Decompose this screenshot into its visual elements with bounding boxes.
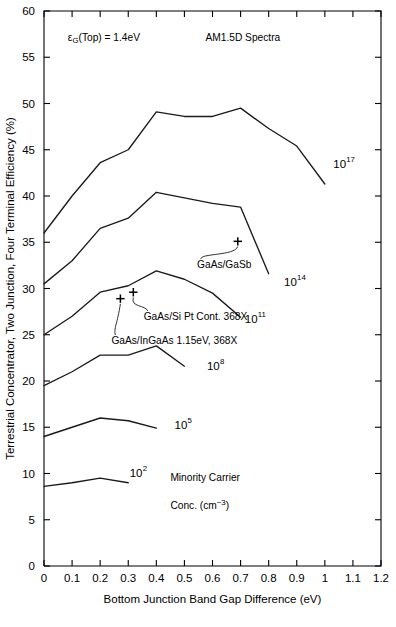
- x-tick-label-7: 0.7: [233, 572, 249, 584]
- y-tick-label-5: 25: [22, 329, 35, 341]
- series-label-base: 10: [175, 419, 188, 431]
- marker-label: GaAs/GaSb: [197, 259, 252, 270]
- x-tick-label-10: 1: [322, 572, 328, 584]
- y-tick-label-4: 20: [22, 375, 35, 387]
- x-tick-label-8: 0.8: [261, 572, 277, 584]
- x-tick-label-0: 0: [41, 572, 47, 584]
- series-label-base: 10: [333, 158, 346, 170]
- series-label-exponent: 11: [258, 310, 266, 319]
- series-label-exponent: 14: [297, 273, 306, 282]
- y-tick-label-10: 50: [22, 98, 35, 110]
- series-label-exponent: 2: [143, 464, 147, 473]
- series-label-exponent: 5: [188, 416, 193, 425]
- series-label-base: 10: [284, 276, 297, 288]
- series-label-exponent: 17: [346, 155, 355, 164]
- y-tick-label-6: 30: [22, 283, 35, 295]
- series-label-base: 10: [130, 467, 143, 479]
- minority-carrier-note-line1: Minority Carrier: [170, 472, 240, 483]
- x-tick-label-3: 0.3: [120, 572, 136, 584]
- x-tick-label-11: 1.1: [345, 572, 361, 584]
- x-axis-title: Bottom Junction Band Gap Difference (eV): [104, 593, 322, 605]
- efficiency-line-chart: 00.10.20.30.40.50.60.70.80.911.11.2 0510…: [0, 0, 396, 627]
- x-tick-label-1: 0.1: [64, 572, 80, 584]
- y-tick-label-8: 40: [22, 190, 35, 202]
- marker-label: GaAs/Si Pt Cont. 368X: [144, 311, 248, 322]
- y-axis-title: Terrestrial Concentrator, Two Junction, …: [4, 117, 16, 460]
- x-tick-label-2: 0.2: [92, 572, 108, 584]
- x-tick-label-9: 0.9: [289, 572, 305, 584]
- x-tick-label-5: 0.5: [176, 572, 192, 584]
- series-label-base: 10: [207, 360, 220, 372]
- chart-figure: 00.10.20.30.40.50.60.70.80.911.11.2 0510…: [0, 0, 396, 627]
- y-tick-label-2: 10: [22, 468, 35, 480]
- y-tick-label-9: 45: [22, 144, 35, 156]
- y-tick-label-7: 35: [22, 236, 35, 248]
- y-tick-label-0: 0: [29, 560, 35, 572]
- y-tick-label-3: 15: [22, 421, 35, 433]
- spectrum-note-text: AM1.5D Spectra: [205, 32, 280, 43]
- y-tick-label-11: 55: [22, 51, 35, 63]
- x-tick-label-4: 0.4: [148, 572, 165, 584]
- y-tick-label-1: 5: [29, 514, 35, 526]
- marker-label: GaAs/InGaAs 1.15eV, 368X: [111, 335, 237, 346]
- x-tick-label-12: 1.2: [373, 572, 389, 584]
- series-label-exponent: 8: [220, 357, 224, 366]
- minority-carrier-note-line1-text: Minority Carrier: [170, 472, 240, 483]
- y-tick-label-12: 60: [22, 5, 35, 17]
- spectrum-note: AM1.5D Spectra: [205, 32, 280, 43]
- x-tick-label-6: 0.6: [205, 572, 221, 584]
